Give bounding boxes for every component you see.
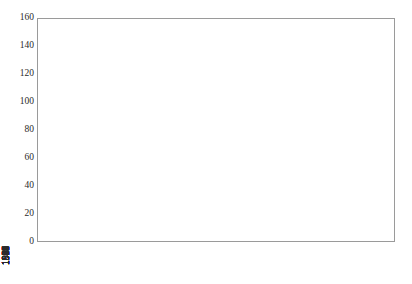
x-axis: 1871187418771880188318861889189218951898… — [0, 0, 412, 284]
x-axis-tick-label: 1937 — [0, 246, 12, 280]
chart-container: 020406080100120140160 187118741877188018… — [0, 0, 412, 284]
